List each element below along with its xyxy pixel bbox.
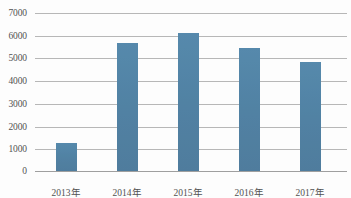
bar-2017 (300, 62, 321, 171)
bar-2015 (178, 33, 199, 171)
bar-2016 (239, 48, 260, 171)
y-tick-label-3000: 3000 (0, 100, 27, 110)
y-tick-label-0: 0 (0, 167, 27, 177)
x-axis-line (35, 171, 347, 172)
x-tick-label-2013: 2013年 (35, 189, 97, 198)
y-tick-label-4000: 4000 (0, 77, 27, 87)
y-tick-label-1000: 1000 (0, 145, 27, 155)
x-tick-label-2014: 2014年 (96, 189, 158, 198)
x-tick-label-2016: 2016年 (218, 189, 280, 198)
bar-2014 (117, 43, 138, 171)
bar-2013 (56, 143, 77, 171)
x-tick-label-2017: 2017年 (279, 189, 341, 198)
y-tick-label-5000: 5000 (0, 54, 27, 64)
y-tick-label-6000: 6000 (0, 32, 27, 42)
y-tick-label-2000: 2000 (0, 123, 27, 133)
bar-chart-figure: 7000 6000 5000 4000 3000 2000 1000 0 201… (0, 0, 351, 198)
y-tick-label-7000: 7000 (0, 9, 27, 19)
x-tick-label-2015: 2015年 (157, 189, 219, 198)
gridline-7000 (35, 13, 347, 14)
plot-area: 7000 6000 5000 4000 3000 2000 1000 0 201… (35, 13, 347, 172)
